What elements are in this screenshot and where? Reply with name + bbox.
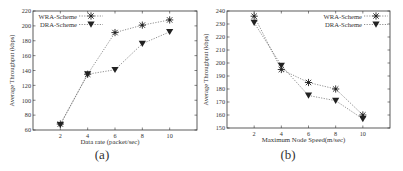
data-point-asterisk-marker bbox=[139, 22, 146, 29]
legend-label: DRA-Scheme bbox=[325, 21, 362, 28]
y-tick-label: 200 bbox=[22, 22, 31, 29]
y-tick-label: 220 bbox=[22, 7, 31, 14]
x-tick-label: 10 bbox=[360, 130, 366, 137]
series-dra-scheme bbox=[251, 20, 367, 122]
y-tick-label: 190 bbox=[216, 72, 225, 79]
y-axis-label: Average Throughput (kbps) bbox=[202, 34, 210, 106]
data-point-triangle-marker bbox=[111, 67, 118, 73]
data-point-asterisk-marker bbox=[332, 85, 339, 92]
legend-asterisk-marker bbox=[372, 12, 379, 19]
data-point-triangle-marker bbox=[251, 20, 258, 26]
y-tick-label: 60 bbox=[25, 126, 31, 133]
chart-caption-a: (a) bbox=[82, 147, 122, 163]
data-point-asterisk-marker bbox=[111, 29, 118, 36]
legend-label: WRA-Scheme bbox=[39, 13, 78, 20]
data-point-triangle-marker bbox=[166, 29, 173, 35]
data-point-asterisk-marker bbox=[251, 13, 258, 20]
x-tick-label: 10 bbox=[167, 132, 173, 139]
legend-label: WRA-Scheme bbox=[324, 13, 363, 20]
data-point-asterisk-marker bbox=[166, 16, 173, 23]
chart-panel-a: 6080100120140160180200220246810Data rate… bbox=[0, 0, 200, 171]
data-point-triangle-marker bbox=[278, 63, 285, 69]
y-axis-ticks: 150160170180190200210220230240 bbox=[216, 7, 390, 131]
legend-triangle-marker bbox=[87, 22, 94, 28]
x-axis-ticks: 246810 bbox=[253, 11, 366, 137]
x-tick-label: 8 bbox=[141, 132, 144, 139]
y-tick-label: 180 bbox=[216, 85, 225, 92]
y-tick-label: 140 bbox=[22, 67, 31, 74]
y-tick-label: 80 bbox=[25, 111, 31, 118]
legend-label: DRA-Scheme bbox=[40, 21, 77, 28]
y-tick-label: 170 bbox=[216, 98, 225, 105]
y-tick-label: 200 bbox=[216, 59, 225, 66]
legend-triangle-marker bbox=[372, 22, 379, 28]
line-chart-a: 6080100120140160180200220246810Data rate… bbox=[0, 0, 200, 171]
chart-caption-b: (b) bbox=[268, 147, 308, 163]
data-point-asterisk-marker bbox=[305, 79, 312, 86]
chart-legend: WRA-SchemeDRA-Scheme bbox=[39, 12, 103, 28]
x-tick-label: 2 bbox=[59, 132, 62, 139]
data-point-triangle-marker bbox=[359, 116, 366, 122]
x-axis-label: Maximum Node Speed(m/sec) bbox=[262, 136, 345, 144]
data-point-triangle-marker bbox=[139, 41, 146, 47]
y-tick-label: 150 bbox=[216, 124, 225, 131]
x-tick-label: 2 bbox=[253, 130, 256, 137]
y-axis-label: Average Throughput (kbps) bbox=[8, 35, 16, 107]
y-tick-label: 210 bbox=[216, 46, 225, 53]
plot-frame bbox=[227, 11, 390, 128]
y-tick-label: 100 bbox=[22, 97, 31, 104]
x-axis-label: Data rate (packet/sec) bbox=[80, 138, 139, 146]
y-tick-label: 220 bbox=[216, 33, 225, 40]
data-point-triangle-marker bbox=[332, 98, 339, 104]
y-tick-label: 240 bbox=[216, 7, 225, 14]
series-wra-scheme bbox=[251, 13, 367, 119]
series-dra-scheme bbox=[57, 29, 174, 128]
y-tick-label: 160 bbox=[22, 52, 31, 59]
chart-panel-b: 150160170180190200210220230240246810Maxi… bbox=[200, 0, 403, 171]
line-chart-b: 150160170180190200210220230240246810Maxi… bbox=[200, 0, 403, 171]
data-point-triangle-marker bbox=[57, 122, 64, 128]
x-axis-ticks: 246810 bbox=[59, 11, 173, 139]
legend-asterisk-marker bbox=[87, 12, 94, 19]
y-tick-label: 160 bbox=[216, 111, 225, 118]
y-tick-label: 180 bbox=[22, 37, 31, 44]
y-tick-label: 230 bbox=[216, 20, 225, 27]
chart-legend: WRA-SchemeDRA-Scheme bbox=[324, 12, 388, 28]
y-tick-label: 120 bbox=[22, 82, 31, 89]
